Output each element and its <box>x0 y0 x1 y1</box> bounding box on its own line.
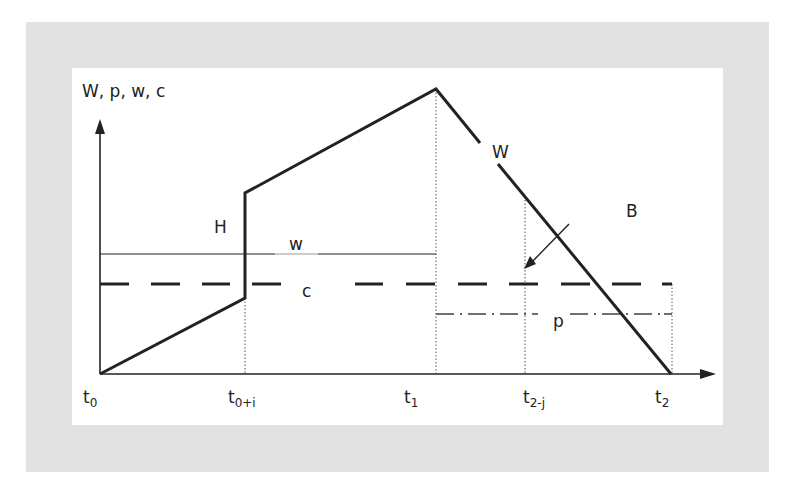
diagram-canvas <box>0 0 793 494</box>
tick-t1: t1 <box>404 389 418 409</box>
B-label: B <box>626 203 638 220</box>
tick-t2j: t2-j <box>523 389 545 409</box>
W-curve-label: W <box>492 144 509 161</box>
y-axis <box>95 119 105 374</box>
guide-lines <box>245 89 672 374</box>
w-line-label: w <box>289 236 303 253</box>
B-arrow <box>524 224 569 269</box>
c-line-label: c <box>302 283 311 300</box>
H-jump-label: H <box>214 219 227 236</box>
tick-t0: t0 <box>83 389 97 409</box>
x-axis <box>100 369 716 379</box>
W-curve <box>100 89 671 374</box>
B-arrow-head-icon <box>524 256 536 269</box>
tick-t0i: t0+i <box>228 389 256 409</box>
y-axis-label: W, p, w, c <box>82 83 165 100</box>
x-axis-arrow-icon <box>700 369 716 379</box>
p-line-label: p <box>553 313 564 330</box>
tick-t2: t2 <box>655 389 669 409</box>
y-axis-arrow-icon <box>95 119 105 134</box>
